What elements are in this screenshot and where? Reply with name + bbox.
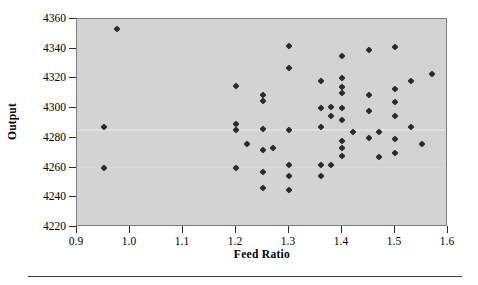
data-point <box>365 47 372 54</box>
y-axis-tick-label: 4240 <box>24 190 66 202</box>
data-point <box>338 75 345 82</box>
data-point <box>259 146 266 153</box>
x-axis-tick-label: 1.3 <box>268 235 308 247</box>
data-point <box>285 173 292 180</box>
y-axis-tick-label: 4220 <box>24 220 66 232</box>
data-point <box>285 64 292 71</box>
data-point <box>232 82 239 89</box>
y-axis-tick <box>69 226 76 227</box>
data-point <box>338 53 345 60</box>
data-point <box>328 103 335 110</box>
x-axis-tick-label: 1.6 <box>427 235 467 247</box>
data-point <box>391 112 398 119</box>
data-point <box>418 140 425 147</box>
x-axis-tick-label: 1.0 <box>109 235 149 247</box>
x-axis-tick <box>447 226 448 233</box>
data-point <box>391 85 398 92</box>
y-axis-tick-label: 4340 <box>24 42 66 54</box>
data-point <box>317 105 324 112</box>
x-axis-tick <box>235 226 236 233</box>
y-axis-tick <box>69 196 76 197</box>
data-point <box>338 145 345 152</box>
y-axis-tick-label: 4360 <box>24 12 66 24</box>
data-point <box>391 44 398 51</box>
data-point <box>270 145 277 152</box>
data-point <box>328 112 335 119</box>
y-axis-tick <box>69 77 76 78</box>
data-point <box>259 97 266 104</box>
x-axis-tick <box>394 226 395 233</box>
data-point <box>285 127 292 134</box>
data-point <box>365 134 372 141</box>
x-axis-tick-label: 1.1 <box>162 235 202 247</box>
x-axis-tick <box>341 226 342 233</box>
y-axis-tick <box>69 18 76 19</box>
data-point <box>391 149 398 156</box>
data-point <box>243 140 250 147</box>
y-axis-tick-label: 4280 <box>24 131 66 143</box>
data-point <box>232 127 239 134</box>
data-point <box>338 116 345 123</box>
y-axis-tick-label: 4300 <box>24 101 66 113</box>
scan-artifact-streak-secondary <box>77 167 446 168</box>
data-point <box>317 78 324 85</box>
data-point <box>113 26 120 33</box>
data-point <box>376 154 383 161</box>
data-point <box>285 186 292 193</box>
data-point <box>338 137 345 144</box>
data-point <box>259 168 266 175</box>
data-point <box>338 105 345 112</box>
y-axis-tick <box>69 107 76 108</box>
x-axis-tick-label: 0.9 <box>56 235 96 247</box>
page-divider-rule <box>28 276 462 277</box>
x-axis-title: Feed Ratio <box>76 248 448 260</box>
x-axis-tick <box>288 226 289 233</box>
x-axis-tick-label: 1.5 <box>374 235 414 247</box>
data-point <box>407 78 414 85</box>
plot-area <box>76 18 447 226</box>
data-point <box>429 70 436 77</box>
x-axis-tick-label: 1.2 <box>215 235 255 247</box>
data-point <box>285 42 292 49</box>
y-axis-tick <box>69 48 76 49</box>
x-axis-tick-label: 1.4 <box>321 235 361 247</box>
data-point <box>391 136 398 143</box>
x-axis-tick <box>76 226 77 233</box>
data-point <box>317 173 324 180</box>
x-axis-tick <box>182 226 183 233</box>
y-axis-tick <box>69 167 76 168</box>
data-point <box>365 108 372 115</box>
data-point <box>338 152 345 159</box>
y-axis-tick <box>69 137 76 138</box>
scatter-plot-figure: Output Feed Ratio 4220424042604280430043… <box>0 0 478 285</box>
y-axis-tick-label: 4260 <box>24 161 66 173</box>
data-point <box>259 185 266 192</box>
data-point <box>391 99 398 106</box>
data-point <box>100 164 107 171</box>
data-point <box>338 90 345 97</box>
data-point <box>232 164 239 171</box>
y-axis-tick-label: 4320 <box>24 71 66 83</box>
data-point <box>259 125 266 132</box>
x-axis-tick <box>129 226 130 233</box>
data-point <box>365 91 372 98</box>
